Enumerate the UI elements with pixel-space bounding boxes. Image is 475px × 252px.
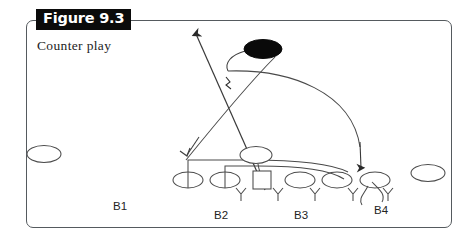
figure-caption: Counter play xyxy=(37,38,111,54)
position-label-b3: B3 xyxy=(294,209,308,221)
figure-number-tag: Figure 9.3 xyxy=(36,9,131,30)
figure-container: Figure 9.3 Counter play B1 B2 B3 B4 xyxy=(0,0,475,252)
position-label-b2: B2 xyxy=(214,209,228,221)
position-label-b4: B4 xyxy=(374,204,388,216)
position-label-b1: B1 xyxy=(113,200,127,212)
